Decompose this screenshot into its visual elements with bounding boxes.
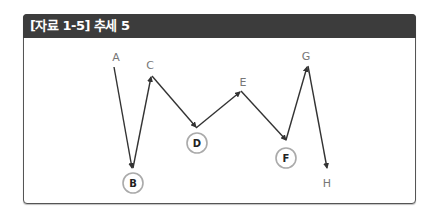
segment-e-f	[241, 91, 286, 140]
point-d: D	[187, 133, 207, 153]
segment-g-h	[308, 66, 327, 168]
point-e: E	[240, 76, 247, 89]
svg-text:A: A	[112, 51, 120, 64]
svg-text:E: E	[240, 76, 247, 89]
svg-text:D: D	[193, 138, 201, 149]
point-c: C	[146, 59, 154, 72]
segment-a-b	[114, 67, 132, 168]
segment-f-g	[286, 67, 307, 140]
svg-text:C: C	[146, 59, 154, 72]
svg-text:G: G	[302, 50, 311, 63]
trend-diagram: A B C D E F G H	[0, 0, 438, 216]
point-a: A	[112, 51, 120, 64]
segment-c-d	[152, 76, 196, 127]
svg-text:H: H	[323, 177, 331, 190]
svg-text:F: F	[283, 153, 290, 164]
point-b: B	[123, 173, 143, 193]
point-h: H	[323, 177, 331, 190]
point-f: F	[276, 148, 296, 168]
segment-b-c	[133, 77, 151, 168]
point-g: G	[302, 50, 311, 63]
svg-text:B: B	[129, 178, 137, 189]
segment-d-e	[196, 92, 240, 128]
